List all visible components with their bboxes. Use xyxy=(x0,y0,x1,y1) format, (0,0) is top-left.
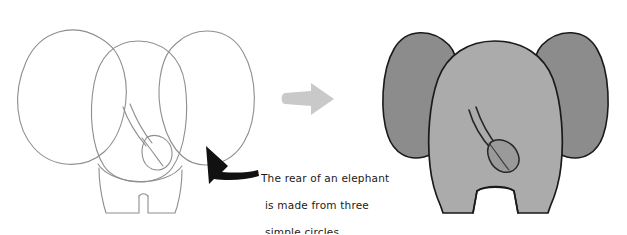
tutorial-page: The rear of an elephant is made from thr… xyxy=(0,0,627,234)
callout-arrow-icon xyxy=(206,146,259,184)
caption-line-2: is made from three xyxy=(261,199,391,213)
caption-line-3: simple circles. xyxy=(261,226,391,235)
callout-caption: The rear of an elephant is made from thr… xyxy=(261,158,391,234)
caption-line-1: The rear of an elephant xyxy=(261,172,391,186)
